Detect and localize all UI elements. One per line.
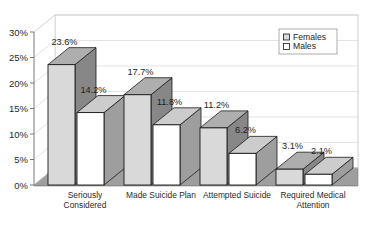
value-label: 17.7% — [127, 67, 153, 77]
bar-front-face — [276, 169, 303, 185]
bar-front-face — [48, 65, 75, 185]
bar-males-1[interactable] — [153, 108, 201, 185]
category-labels-layer: SeriouslyConsideredMade Suicide PlanAtte… — [64, 190, 346, 210]
category-label: Seriously — [68, 190, 103, 200]
bar-front-face — [229, 153, 256, 185]
value-label: 3.1% — [282, 141, 303, 151]
value-label: 14.2% — [80, 85, 106, 95]
bar-front-face — [124, 95, 151, 185]
bar-chart: 30% 25% 20% 15% 10% 5% 0% 23.6%14.2%17.7… — [0, 0, 372, 231]
y-tick-marks — [30, 32, 34, 185]
legend-swatch-males — [284, 44, 290, 50]
bar-front-face — [200, 128, 227, 185]
y-tick-label: 5% — [14, 154, 28, 165]
y-tick-label: 15% — [9, 103, 29, 114]
y-tick-label: 25% — [9, 52, 29, 63]
value-label: 11.8% — [157, 97, 182, 107]
value-label: 23.6% — [51, 37, 77, 47]
category-label: Attention — [296, 200, 329, 210]
bar-front-face — [153, 125, 180, 185]
category-label: Attempted Suicide — [203, 190, 271, 200]
category-label: Considered — [64, 200, 107, 210]
legend-label-females: Females — [293, 32, 326, 42]
value-label: 11.2% — [204, 100, 229, 110]
value-label: 2.1% — [311, 146, 332, 156]
value-label: 6.2% — [235, 125, 256, 135]
y-tick-label: 10% — [9, 129, 29, 140]
y-tick-label: 30% — [9, 27, 29, 38]
legend[interactable]: Females Males — [279, 29, 337, 54]
chart-svg: 30% 25% 20% 15% 10% 5% 0% 23.6%14.2%17.7… — [0, 0, 372, 231]
bar-front-face — [77, 113, 104, 185]
legend-swatch-females — [284, 34, 290, 40]
y-tick-label: 0% — [14, 180, 28, 191]
y-tick-labels: 30% 25% 20% 15% 10% 5% 0% — [9, 27, 29, 191]
y-tick-label: 20% — [9, 78, 29, 89]
bar-males-0[interactable] — [77, 96, 125, 185]
bar-front-face — [305, 174, 332, 185]
category-label: Made Suicide Plan — [126, 190, 196, 200]
category-label: Required Medical — [280, 190, 345, 200]
legend-label-males: Males — [293, 41, 316, 51]
